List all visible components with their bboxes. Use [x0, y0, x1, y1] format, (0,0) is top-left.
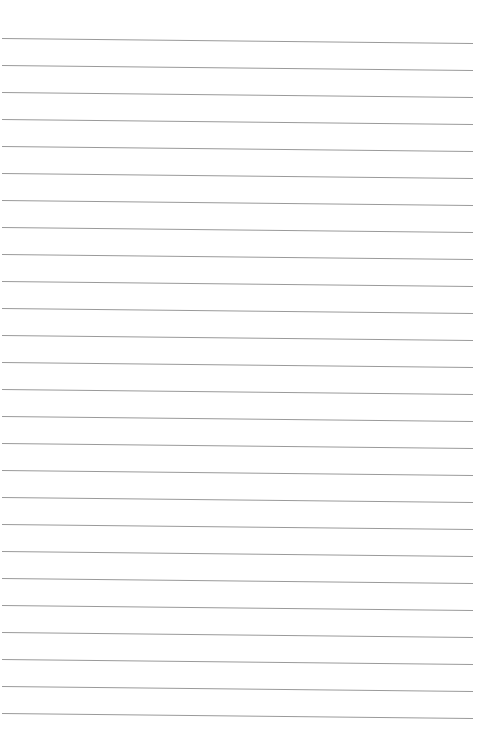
ruled-line	[2, 417, 473, 422]
ruled-line	[2, 525, 473, 530]
ruled-line	[2, 633, 473, 638]
ruled-line	[2, 255, 473, 260]
ruled-line	[2, 363, 473, 368]
ruled-line	[2, 606, 473, 611]
ruled-line	[2, 579, 473, 584]
ruled-line	[2, 390, 473, 395]
ruled-line	[2, 714, 473, 719]
lined-paper-page	[0, 0, 485, 755]
ruled-line	[2, 228, 473, 233]
ruled-line	[2, 444, 473, 449]
ruled-line	[2, 93, 473, 98]
ruled-line	[2, 552, 473, 557]
ruled-line	[2, 282, 473, 287]
ruled-line	[2, 336, 473, 341]
ruled-line	[2, 147, 473, 152]
ruled-line	[2, 66, 473, 71]
ruled-line	[2, 498, 473, 503]
ruled-line	[2, 471, 473, 476]
ruled-line	[2, 39, 473, 44]
ruled-line	[2, 174, 473, 179]
ruled-line	[2, 201, 473, 206]
ruled-line	[2, 660, 473, 665]
ruled-line	[2, 687, 473, 692]
ruled-lines	[0, 0, 485, 755]
ruled-line	[2, 120, 473, 125]
ruled-line	[2, 309, 473, 314]
